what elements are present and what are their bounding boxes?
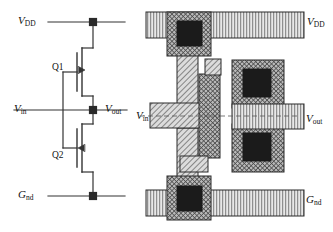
vdd-contact-cut (177, 21, 202, 46)
figure-root: VDD Vin Vout Gnd Q1 Q2 VDD Vin Vout Gnd (0, 0, 333, 232)
layout-vdd-label: VDD (307, 16, 325, 29)
pmos-drain-contact-cut (243, 69, 271, 97)
schematic-q1-label: Q1 (52, 62, 64, 72)
schematic-gnd-label: Gnd (18, 189, 33, 202)
schematic-vdd-label: VDD (18, 15, 36, 28)
poly-gate-tab-bottom (180, 156, 208, 172)
nmos-drain-contact-cut (243, 133, 271, 161)
figure-svg (0, 0, 333, 232)
layout-gnd-label: Gnd (306, 194, 321, 207)
layout-vin-label: Vin (136, 110, 149, 123)
vout-metal-rail (232, 104, 304, 129)
layout-panel (140, 12, 304, 220)
layout-vout-label: Vout (306, 113, 322, 126)
gnd-contact-cut (177, 186, 202, 211)
schematic-vout-label: Vout (105, 103, 121, 116)
schematic-q2-label: Q2 (52, 150, 64, 160)
poly-gate-tab-top (205, 59, 221, 75)
schematic-vin-label: Vin (14, 103, 27, 116)
vdd-node-dot (90, 19, 97, 26)
q2-nmos-arrow (78, 145, 85, 152)
output-node-dot (90, 107, 97, 114)
gnd-node-dot (90, 193, 97, 200)
